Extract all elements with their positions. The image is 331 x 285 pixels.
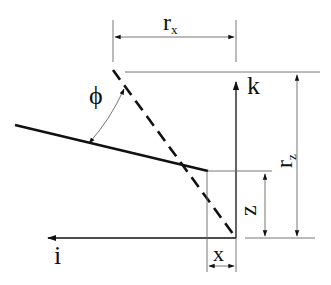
z-dimension: z: [208, 171, 272, 236]
phi-label: ϕ: [89, 81, 103, 110]
z-label: z: [235, 205, 261, 216]
rx-dimension: rx: [113, 9, 236, 62]
i-axis: i: [48, 238, 236, 270]
phi-angle: ϕ: [89, 81, 124, 143]
k-label: k: [247, 71, 260, 100]
geometry-diagram: rx ϕ k i rz z x: [0, 0, 331, 285]
rx-label: rx: [163, 9, 178, 37]
rz-dimension: rz: [271, 75, 299, 236]
rz-label: rz: [271, 154, 299, 168]
x-dimension: x: [207, 171, 236, 272]
x-label: x: [213, 241, 224, 266]
solid-line: [15, 125, 208, 171]
i-label: i: [54, 241, 61, 270]
